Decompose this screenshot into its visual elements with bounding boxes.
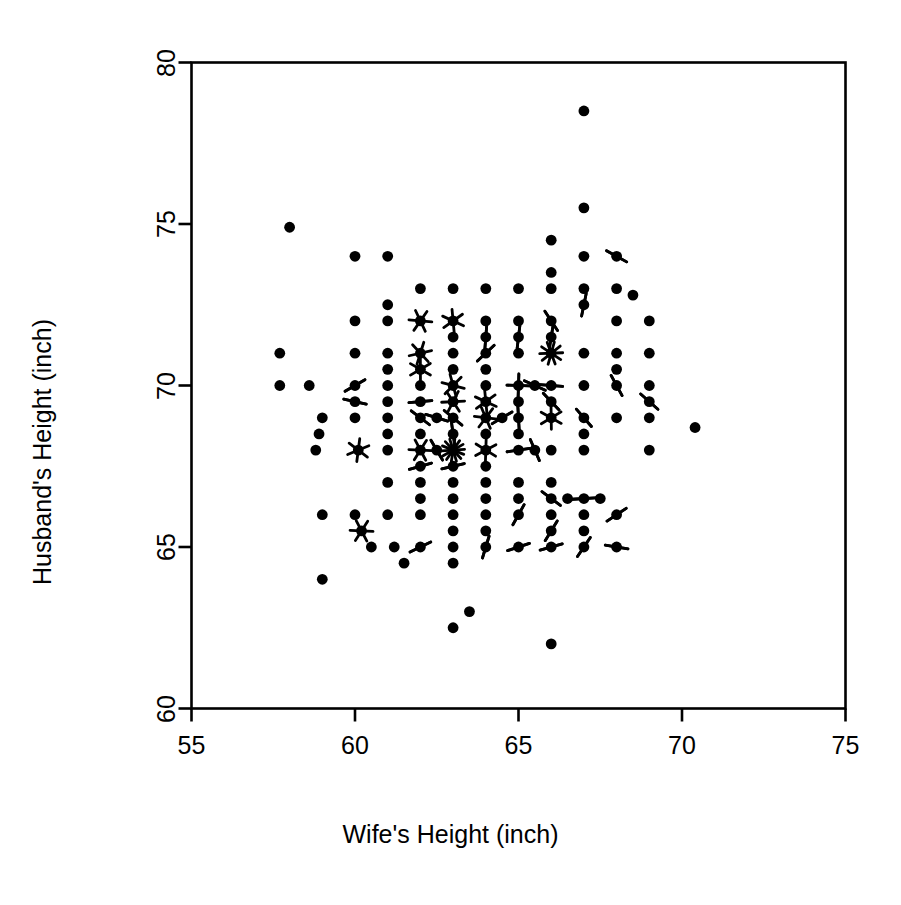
data-point — [344, 396, 366, 407]
y-tick-label-75: 75 — [151, 210, 180, 238]
data-point — [480, 477, 491, 488]
data-point — [611, 375, 622, 395]
data-point — [409, 396, 432, 407]
data-point — [448, 622, 459, 633]
data-point — [513, 348, 524, 359]
data-point — [546, 509, 557, 520]
data-point — [348, 439, 369, 462]
x-tick-label-55: 55 — [178, 731, 206, 760]
data-point — [546, 283, 557, 294]
data-point — [611, 348, 622, 359]
data-point — [542, 492, 560, 506]
data-point — [628, 290, 639, 301]
data-point — [595, 493, 606, 504]
y-axis-title: Husband's Height (inch) — [28, 319, 57, 585]
data-point — [644, 445, 655, 456]
data-point — [480, 536, 491, 558]
data-point — [415, 380, 426, 391]
data-point — [274, 380, 285, 391]
data-point — [448, 509, 459, 520]
data-point — [310, 445, 321, 456]
data-point — [579, 251, 590, 262]
data-point — [448, 348, 459, 359]
data-point — [644, 412, 655, 423]
data-point — [448, 542, 459, 553]
x-axis-title: Wife's Height (inch) — [0, 820, 901, 849]
data-point — [317, 412, 328, 423]
data-point — [448, 283, 459, 294]
data-point — [382, 348, 393, 359]
data-point — [513, 493, 524, 504]
data-point — [442, 374, 464, 396]
data-point — [579, 445, 590, 456]
data-point — [382, 299, 393, 310]
data-point — [410, 542, 431, 553]
data-point — [545, 311, 558, 330]
plot-canvas — [0, 0, 901, 905]
data-point — [545, 521, 557, 541]
data-point — [350, 412, 361, 423]
data-point — [644, 348, 655, 359]
data-point — [480, 326, 491, 349]
data-point — [409, 440, 432, 460]
data-point — [605, 542, 628, 553]
data-point — [480, 461, 491, 472]
data-point — [382, 429, 393, 440]
data-point — [350, 521, 373, 541]
x-tick-label-75: 75 — [832, 731, 860, 760]
data-point — [690, 422, 701, 433]
y-tick-label-80: 80 — [151, 49, 180, 77]
data-point — [284, 222, 295, 233]
data-point — [644, 380, 655, 391]
data-point — [579, 380, 590, 391]
data-point — [529, 440, 540, 461]
data-point — [513, 505, 524, 525]
data-point — [546, 267, 557, 278]
data-point — [442, 461, 464, 472]
data-point — [409, 310, 432, 331]
data-point — [540, 542, 562, 553]
data-point — [274, 348, 285, 359]
data-point — [448, 493, 459, 504]
data-point — [382, 412, 393, 423]
data-point — [546, 235, 557, 246]
data-point — [611, 412, 622, 423]
data-point — [480, 380, 491, 391]
data-point — [409, 461, 431, 472]
data-point — [572, 493, 595, 504]
data-point — [382, 509, 393, 520]
data-point — [513, 429, 524, 440]
data-point — [317, 574, 328, 585]
data-point — [415, 509, 426, 520]
data-point — [607, 251, 627, 262]
data-point — [579, 348, 590, 359]
data-point — [480, 525, 491, 536]
data-point — [611, 283, 622, 294]
data-point — [448, 332, 459, 343]
data-point — [464, 606, 475, 617]
data-point — [480, 283, 491, 294]
data-point — [480, 509, 491, 520]
data-point — [644, 316, 655, 327]
data-point — [579, 509, 590, 520]
scatter-plot-figure: 5560657075 6065707580 Wife's Height (inc… — [0, 0, 901, 905]
data-point — [350, 509, 361, 520]
data-point — [382, 364, 393, 375]
data-point — [448, 525, 459, 536]
data-point — [607, 508, 626, 521]
data-point — [579, 525, 590, 536]
data-point — [448, 477, 459, 488]
data-point — [480, 493, 491, 504]
data-point — [611, 364, 622, 375]
data-point — [382, 477, 393, 488]
data-point — [382, 251, 393, 262]
y-tick-label-70: 70 — [151, 372, 180, 400]
data-point — [546, 639, 557, 650]
data-point — [513, 326, 524, 349]
data-point — [579, 429, 590, 440]
data-point — [317, 509, 328, 520]
data-point — [415, 493, 426, 504]
x-tick-label-60: 60 — [341, 731, 369, 760]
x-axis-ticks — [192, 709, 846, 722]
data-point — [579, 106, 590, 117]
